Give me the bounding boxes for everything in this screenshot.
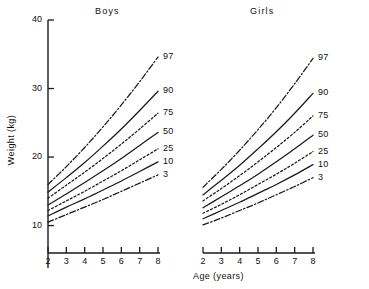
percentile-label-p25: 25 bbox=[318, 146, 329, 156]
y-axis-title: Weight (kg) bbox=[6, 110, 16, 170]
percentile-curve-p10 bbox=[48, 162, 158, 216]
percentile-label-p75: 75 bbox=[318, 110, 329, 120]
x-tick-label: 3 bbox=[214, 256, 228, 266]
x-axis-title: Age (years) bbox=[193, 271, 244, 281]
percentile-curve-p50 bbox=[203, 135, 313, 208]
y-tick-label: 20 bbox=[20, 151, 42, 161]
percentile-curve-p10 bbox=[203, 165, 313, 219]
x-tick-label: 2 bbox=[196, 256, 210, 266]
y-tick-label: 10 bbox=[20, 220, 42, 230]
percentile-label-p90: 90 bbox=[163, 85, 174, 95]
percentile-label-p3: 3 bbox=[318, 172, 323, 182]
x-tick-label: 7 bbox=[288, 256, 302, 266]
percentile-curve-p3 bbox=[203, 178, 313, 225]
x-tick-label: 6 bbox=[114, 256, 128, 266]
percentile-curve-p50 bbox=[48, 132, 158, 205]
percentile-curve-p75 bbox=[48, 113, 158, 198]
chart-plot-area bbox=[0, 0, 369, 289]
x-tick-label: 4 bbox=[233, 256, 247, 266]
panel-title-girls: Girls bbox=[250, 6, 275, 16]
percentile-curve-p3 bbox=[48, 175, 158, 222]
percentile-curve-p97 bbox=[203, 58, 313, 187]
percentile-label-p97: 97 bbox=[318, 52, 329, 62]
percentile-label-p97: 97 bbox=[163, 51, 174, 61]
x-tick-label: 6 bbox=[269, 256, 283, 266]
percentile-curve-p90 bbox=[48, 91, 158, 192]
x-tick-label: 8 bbox=[151, 256, 165, 266]
percentile-label-p10: 10 bbox=[318, 159, 329, 169]
percentile-curve-p97 bbox=[48, 57, 158, 184]
x-tick-label: 7 bbox=[133, 256, 147, 266]
x-tick-label: 2 bbox=[41, 256, 55, 266]
x-tick-label: 5 bbox=[96, 256, 110, 266]
y-tick-label: 40 bbox=[20, 14, 42, 24]
percentile-label-p50: 50 bbox=[318, 129, 329, 139]
percentile-label-p3: 3 bbox=[163, 169, 168, 179]
percentile-curve-p90 bbox=[203, 93, 313, 194]
percentile-label-p10: 10 bbox=[163, 156, 174, 166]
percentile-label-p25: 25 bbox=[163, 143, 174, 153]
x-tick-label: 5 bbox=[251, 256, 265, 266]
growth-chart-figure: Boys Girls Weight (kg) Age (years) 40302… bbox=[0, 0, 369, 289]
x-tick-label: 3 bbox=[59, 256, 73, 266]
x-tick-label: 8 bbox=[306, 256, 320, 266]
percentile-label-p50: 50 bbox=[163, 126, 174, 136]
y-tick-label: 30 bbox=[20, 83, 42, 93]
percentile-label-p75: 75 bbox=[163, 107, 174, 117]
x-tick-label: 4 bbox=[78, 256, 92, 266]
percentile-label-p90: 90 bbox=[318, 87, 329, 97]
percentile-curve-p75 bbox=[203, 116, 313, 201]
panel-title-boys: Boys bbox=[95, 6, 120, 16]
